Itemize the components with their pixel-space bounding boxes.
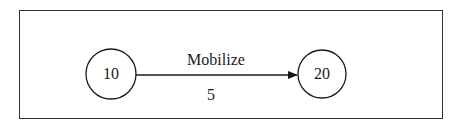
node-10-label: 10 bbox=[103, 65, 119, 82]
node-20-label: 20 bbox=[314, 65, 330, 82]
network-diagram: 10 Mobilize 5 20 bbox=[0, 0, 462, 126]
duration-label: 5 bbox=[207, 86, 215, 103]
activity-label: Mobilize bbox=[187, 51, 245, 68]
node-10: 10 bbox=[86, 49, 136, 99]
edge-mobilize: Mobilize 5 bbox=[136, 51, 297, 103]
node-20: 20 bbox=[298, 50, 346, 98]
